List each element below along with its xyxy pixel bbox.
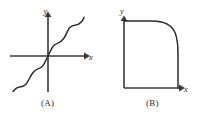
panel-b-caption: (B) — [146, 98, 159, 108]
panel-b-group: x y — [119, 6, 188, 94]
panel-b-y-axis-label: y — [119, 6, 124, 16]
panel-a-x-axis-label: x — [88, 52, 93, 62]
panel-b-curve — [124, 21, 178, 88]
panel-b-x-axis-label: x — [183, 84, 188, 94]
panel-b-y-axis-arrow-icon — [121, 16, 128, 22]
panel-a-group: x y — [10, 6, 93, 93]
figure-svg: x y x y — [0, 0, 206, 118]
panel-a-y-axis-label: y — [43, 6, 48, 16]
panel-a-caption: (A) — [41, 98, 54, 108]
figure-container: x y x y (A) (B) — [0, 0, 206, 118]
